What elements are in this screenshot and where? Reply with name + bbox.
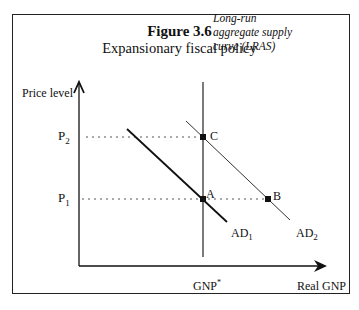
p1-tick-label: P1 [58,190,70,208]
diagram-canvas [0,0,359,310]
lras-label: Long-run [213,11,256,26]
point-c-marker [200,134,206,140]
x-axis-label: Real GNP [297,279,346,294]
p2-tick-label: P2 [58,128,70,146]
gnp-star-tick-label: GNP* [193,278,221,294]
ad1-label: AD1 [231,226,253,242]
ad2-label: AD2 [296,226,318,242]
lras-label-2: aggregate supply [213,25,292,40]
point-b-marker [265,196,271,202]
lras-label-3: curve (LRAS) [213,39,275,54]
point-b-label: B [273,189,281,204]
point-c-label: C [210,129,218,144]
point-a-label: A [206,187,215,202]
y-axis-label: Price level [22,86,73,101]
